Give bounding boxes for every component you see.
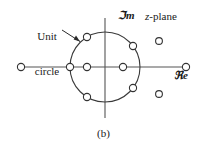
z-plane-figure: Unit circle ℑm ℜe z-plane (b): [0, 0, 207, 150]
figure-caption: (b): [0, 128, 207, 140]
plot-marker: [83, 63, 90, 70]
real-axis-label: ℜe: [174, 70, 188, 82]
imaginary-axis-label: ℑm: [118, 10, 135, 22]
plot-marker: [129, 84, 136, 91]
z-plane-label: z-plane: [145, 11, 177, 23]
unit-circle-label: Unit circle: [18, 8, 76, 100]
plot-marker: [119, 63, 126, 70]
plot-marker: [83, 33, 90, 40]
plot-marker: [156, 91, 163, 98]
plot-marker: [83, 93, 90, 100]
plot-marker: [129, 42, 136, 49]
unit-circle-label-line2: circle: [18, 66, 76, 78]
plot-marker: [156, 38, 163, 45]
unit-circle-label-line1: Unit: [18, 31, 76, 43]
z-plane-label-text: -plane: [149, 10, 176, 22]
